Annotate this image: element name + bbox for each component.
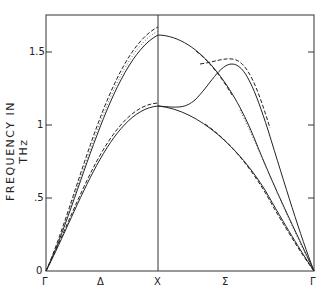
y-tick-0-5: .5	[34, 193, 44, 203]
delta-upper-dashed	[46, 27, 158, 271]
delta-lower-dashed	[46, 103, 158, 271]
plot-area	[0, 0, 329, 301]
y-ticks-right	[308, 52, 314, 198]
y-axis-label: FREQUENCY IN THz	[4, 86, 30, 216]
x-tick-sigma: Σ	[222, 277, 228, 287]
x-tick-gamma-left: Γ	[42, 277, 48, 287]
y-ticks-left	[46, 52, 52, 198]
x-tick-delta: Δ	[97, 277, 104, 287]
x-tick-gamma-right: Γ	[310, 277, 316, 287]
y-tick-0: 0	[36, 266, 42, 276]
sigma-upper-dashed	[196, 51, 232, 95]
plot-frame	[46, 15, 314, 271]
dispersion-curves	[46, 27, 314, 271]
sigma-bump-dashed	[200, 59, 270, 128]
dispersion-chart: FREQUENCY IN THz 0 .5 1 1.5 Γ Δ X Σ Γ	[0, 0, 329, 301]
sigma-bump-solid	[158, 64, 314, 271]
y-tick-1-5: 1.5	[29, 47, 45, 57]
y-tick-1: 1	[37, 120, 43, 130]
delta-lower-solid	[46, 106, 158, 271]
sigma-lower-solid	[158, 106, 314, 271]
x-tick-x: X	[154, 277, 161, 287]
sigma-lower-dashed	[205, 124, 314, 271]
